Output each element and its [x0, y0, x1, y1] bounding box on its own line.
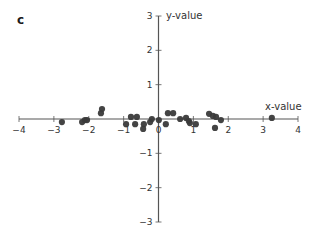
y-tick-label: 1 [147, 80, 153, 90]
x-tick-label: 3 [260, 125, 266, 135]
y-tick-label: −3 [139, 217, 152, 227]
data-point [140, 126, 146, 132]
x-tick-label: 2 [225, 125, 231, 135]
x-axis-label: x-value [265, 101, 302, 112]
x-tick-label: 0 [156, 125, 162, 135]
x-tick-label: −4 [12, 125, 26, 135]
data-point [149, 116, 155, 122]
data-point [187, 120, 193, 126]
y-tick-label: 2 [147, 45, 153, 55]
data-point [163, 121, 169, 127]
y-tick-label: 3 [147, 11, 153, 21]
scatter-plot: −4−3−2−101234−3−2−1123 [0, 0, 315, 242]
data-point [132, 121, 138, 127]
data-point [156, 117, 162, 123]
data-point [193, 121, 199, 127]
data-point [59, 119, 65, 125]
data-point [177, 116, 183, 122]
data-point [170, 110, 176, 116]
x-tick-label: −1 [117, 125, 130, 135]
data-point [123, 121, 129, 127]
y-tick-label: −1 [139, 148, 152, 158]
y-tick-label: −2 [139, 183, 152, 193]
data-point [134, 114, 140, 120]
data-point [212, 125, 218, 131]
data-point [218, 117, 224, 123]
y-axis-label: y-value [166, 10, 202, 21]
data-point [128, 114, 134, 120]
x-tick-label: −3 [47, 125, 60, 135]
data-point [99, 106, 105, 112]
data-point [84, 117, 90, 123]
x-tick-label: −2 [82, 125, 95, 135]
x-tick-label: 4 [295, 125, 301, 135]
data-point [269, 115, 275, 121]
